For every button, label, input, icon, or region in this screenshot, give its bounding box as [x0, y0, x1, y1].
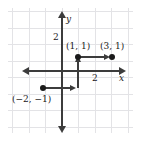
- connector-arrow-right-lower: [70, 85, 76, 91]
- point-label-neg2-neg1: (−2, −1): [12, 95, 51, 104]
- gridline-horizontal: [8, 11, 133, 12]
- data-point-3-1: [109, 54, 115, 60]
- data-point-1-1: [75, 54, 81, 60]
- y-axis-arrow-down: [58, 126, 66, 133]
- gridline-horizontal: [8, 77, 133, 78]
- gridline-vertical: [128, 8, 129, 133]
- y-axis-line: [61, 17, 63, 127]
- gridline-horizontal: [8, 28, 133, 29]
- gridline-horizontal: [8, 110, 133, 111]
- data-point-neg2-neg1: [40, 85, 46, 91]
- point-label-1-1: (1, 1): [66, 42, 90, 51]
- x-axis-line: [28, 70, 120, 72]
- x-axis-label: x: [119, 74, 124, 83]
- point-label-3-1: (3, 1): [100, 42, 124, 51]
- coordinate-plane-figure: (1, 1) (3, 1) (−2, −1) 2 2 y x: [0, 0, 142, 141]
- connector-segment-vertical: [77, 62, 79, 88]
- y-axis-label: y: [66, 15, 71, 24]
- gridline-vertical: [12, 8, 13, 133]
- connector-segment-horizontal-upper: [79, 56, 105, 58]
- gridline-horizontal: [8, 61, 133, 62]
- x-axis-arrow-left: [22, 67, 29, 75]
- gridline-horizontal: [8, 127, 133, 128]
- y-axis-tick-label-2: 2: [53, 33, 59, 42]
- connector-segment-horizontal-lower: [43, 87, 71, 89]
- y-axis-arrow-up: [58, 11, 66, 18]
- x-axis-tick-label-2: 2: [92, 74, 98, 83]
